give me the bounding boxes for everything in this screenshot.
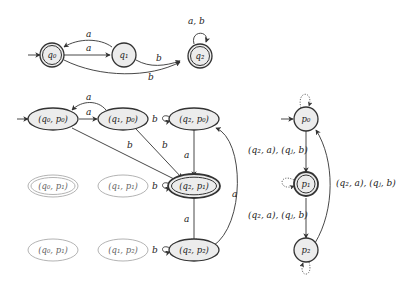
edge-label-q0p0-q1p0: a bbox=[86, 107, 91, 117]
edge-label-p0-p1: (q₂, a), (qⱼ, b) bbox=[248, 145, 308, 155]
state-q0p1: (q₀, p₁) bbox=[28, 175, 78, 197]
edge-label-q1p0-q0p0: a bbox=[86, 92, 91, 102]
state-p1: p₁ bbox=[294, 172, 318, 196]
state-q2p1: (q₂, p₁) bbox=[168, 174, 220, 198]
svg-text:(q₀, p₀): (q₀, p₀) bbox=[38, 114, 68, 124]
state-q1: q₁ bbox=[112, 43, 136, 67]
svg-text:(q₁, p₁): (q₁, p₁) bbox=[108, 181, 138, 191]
edge-q1p0-q2p1 bbox=[136, 129, 182, 178]
automata-diagram: a a b b a, b q₀ q₁ q₂ a bbox=[0, 0, 403, 287]
state-q1p0: (q₁, p₀) bbox=[98, 108, 148, 130]
svg-text:(q₀, p₁): (q₀, p₁) bbox=[38, 245, 68, 255]
state-q2p0: (q₂, p₀) bbox=[169, 108, 219, 130]
edge-label-q1p0-q2p1: b bbox=[162, 140, 168, 150]
edge-label-q2p0-loop: b bbox=[152, 114, 158, 124]
state-q1p2: (q₁, p₂) bbox=[98, 239, 148, 261]
edge-label-q1-q2: b bbox=[156, 53, 162, 63]
state-q2p2: (q₂, p₂) bbox=[169, 239, 219, 261]
self-loop-p0-dotted bbox=[300, 94, 310, 108]
product-automaton: a a b b b a b a b a (q₀, p₀) bbox=[17, 92, 237, 261]
state-p0: p₀ bbox=[294, 107, 318, 131]
edge-label-q0-q1: a bbox=[86, 43, 91, 53]
edge-label-p2-p0: (q₂, a), (qⱼ, b) bbox=[336, 178, 396, 188]
svg-text:(q₁, p₂): (q₁, p₂) bbox=[108, 245, 138, 255]
svg-text:(q₂, p₂): (q₂, p₂) bbox=[179, 245, 209, 255]
self-loop-p1-dotted bbox=[282, 178, 294, 187]
edge-q0p0-q2p1 bbox=[72, 128, 180, 182]
edge-label-q2p2-q2p0: a bbox=[232, 189, 237, 199]
edge-label-q2p0-q2p1: a bbox=[184, 150, 189, 160]
edge-label-q2p1-loop: b bbox=[152, 181, 158, 191]
edge-label-q0p0-q2p1: b bbox=[127, 140, 133, 150]
svg-text:(q₂, p₁): (q₂, p₁) bbox=[179, 181, 209, 191]
state-q2: q₂ bbox=[188, 44, 212, 68]
top-automaton: a a b b a, b q₀ q₁ q₂ bbox=[28, 16, 212, 82]
state-q0p1-bottom: (q₀, p₁) bbox=[28, 239, 78, 261]
svg-text:p₂: p₂ bbox=[302, 245, 311, 255]
edge-label-q0-q2: b bbox=[148, 72, 154, 82]
state-q0: q₀ bbox=[40, 43, 64, 67]
state-q1p1: (q₁, p₁) bbox=[98, 175, 148, 197]
state-q0p0: (q₀, p₀) bbox=[28, 108, 78, 130]
state-p2: p₂ bbox=[294, 238, 318, 262]
svg-text:(q₁, p₀): (q₁, p₀) bbox=[108, 114, 138, 124]
self-loop-q2 bbox=[193, 33, 206, 44]
edge-label-p1-p2: (q₂, a), (qⱼ, b) bbox=[248, 210, 308, 220]
svg-text:(q₂, p₀): (q₂, p₀) bbox=[179, 114, 209, 124]
svg-text:q₀: q₀ bbox=[48, 50, 57, 60]
edge-label-q2-loop: a, b bbox=[188, 16, 205, 26]
svg-text:(q₀, p₁): (q₀, p₁) bbox=[38, 181, 68, 191]
self-loop-p2-dotted bbox=[302, 262, 310, 274]
edge-label-q1-q0: a bbox=[86, 29, 91, 39]
svg-text:q₂: q₂ bbox=[196, 51, 205, 61]
edge-label-q2p1-q2p2: a bbox=[184, 214, 189, 224]
svg-text:p₁: p₁ bbox=[302, 179, 311, 189]
right-automaton: (q₂, a), (qⱼ, b) (q₂, a), (qⱼ, b) (q₂, a… bbox=[248, 94, 396, 274]
edge-label-q2p2-loop: b bbox=[152, 245, 158, 255]
svg-text:q₁: q₁ bbox=[120, 50, 129, 60]
svg-text:p₀: p₀ bbox=[302, 114, 311, 124]
